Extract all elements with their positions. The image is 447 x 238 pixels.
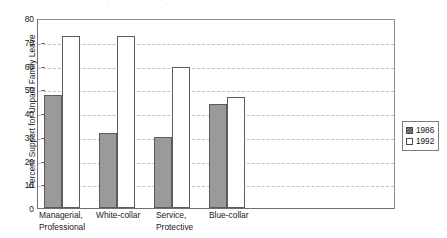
x-category-line-1: Managerial,	[39, 210, 83, 220]
y-tick-label-20: 20	[12, 157, 34, 167]
bar-service-protective-1992	[172, 67, 190, 208]
legend-label-1992: 1992	[416, 137, 434, 146]
x-axis-labels: Managerial, Professional White-collar Se…	[37, 210, 395, 238]
bar-service-protective-1986	[154, 137, 172, 208]
y-axis-ticks: 80 70 60 50 40 30 20 10 0	[8, 19, 34, 209]
bar-blue-collar-1992	[227, 97, 245, 208]
y-tick-label-40: 40	[12, 109, 34, 119]
x-category-white-collar: White-collar	[96, 210, 140, 222]
bar-white-collar-1992	[117, 36, 135, 208]
y-tick-label-60: 60	[12, 62, 34, 72]
x-category-line-1: White-collar	[96, 210, 140, 220]
x-category-managerial-professional: Managerial, Professional	[39, 210, 85, 233]
bars-layer	[38, 19, 394, 208]
legend-entry-1986: 1986	[406, 125, 434, 136]
y-tick-label-30: 30	[12, 133, 34, 143]
x-category-line-1: Blue-collar	[209, 210, 249, 220]
x-category-service-protective: Service, Protective	[156, 210, 193, 233]
legend-label-1986: 1986	[416, 126, 434, 135]
x-category-line-2: Professional	[39, 222, 85, 234]
y-tick-label-10: 10	[12, 180, 34, 190]
legend-entry-1992: 1992	[406, 136, 434, 147]
x-category-line-2: Protective	[156, 222, 193, 234]
legend-swatch-icon-1992	[406, 138, 413, 145]
y-tick-label-70: 70	[12, 38, 34, 48]
bar-managerial-professional-1986	[44, 95, 62, 208]
x-category-blue-collar: Blue-collar	[209, 210, 249, 222]
x-category-line-1: Service,	[156, 210, 186, 220]
scan-speckle	[108, 4, 109, 5]
bar-white-collar-1986	[99, 133, 117, 208]
y-tick-label-80: 80	[12, 14, 34, 24]
scan-speckle	[166, 3, 167, 4]
y-tick-label-50: 50	[12, 85, 34, 95]
bar-managerial-professional-1992	[62, 36, 80, 208]
legend-swatch-icon-1986	[406, 127, 413, 134]
y-tick-label-0: 0	[12, 204, 34, 214]
legend: 1986 1992	[402, 121, 439, 151]
bar-blue-collar-1986	[209, 104, 227, 208]
bar-chart: Percent Support for Unpaid Family Leave …	[0, 0, 447, 238]
